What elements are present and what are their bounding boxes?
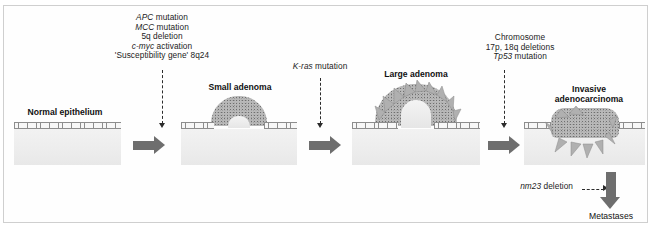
annotation-text: deletion [541, 181, 573, 191]
gene-name: Tp53 [493, 51, 512, 61]
tissue-block-normal [14, 129, 121, 165]
transition-arrow-2 [309, 136, 342, 155]
tissue-block-large-adenoma [352, 129, 480, 165]
annotation-text: 17p, 18q deletions [486, 42, 555, 52]
arrow-head [154, 136, 165, 154]
gene-name: APC [136, 12, 153, 22]
colorectal-carcinogenesis-figure: APC mutation MCC mutation 5q deletion c-… [0, 0, 654, 232]
annotation-text: 5q deletion [141, 31, 182, 41]
tissue-block-small-adenoma [181, 129, 297, 165]
annotation-text: mutation [512, 51, 547, 61]
dashed-connector-kras [320, 78, 321, 124]
epithelium-layer-normal [14, 122, 121, 129]
arrow-head [600, 197, 620, 209]
annotation-text: mutation [153, 12, 188, 22]
epithelium-layer-small-right [264, 122, 297, 129]
annotation-text: mutation [154, 22, 189, 32]
annotation-line: K-ras mutation [268, 62, 372, 72]
dashed-arrowhead-kras [317, 123, 323, 128]
epithelium-layer-small-left [181, 122, 214, 129]
annotation-text: mutation [313, 61, 348, 71]
annotation-text: 'Susceptibility gene' 8q24 [115, 50, 209, 60]
gene-name: c-myc [132, 41, 154, 51]
annotation-line: 'Susceptibility gene' 8q24 [82, 51, 242, 61]
annotation-nm23: nm23 deletion [463, 182, 573, 192]
dashed-connector-apc [162, 70, 163, 124]
stage-label-small-adenoma: Small adenoma [194, 83, 286, 93]
invasion-fronts-carcinoma [543, 104, 627, 160]
dashed-arrowhead-chromosome [501, 123, 507, 128]
arrow-shaft [488, 141, 510, 150]
gene-name: K-ras [293, 61, 313, 71]
arrow-shaft [309, 141, 331, 150]
arrow-head [509, 136, 520, 154]
arrow-head [330, 136, 341, 154]
epithelium-layer-large-right [434, 122, 480, 129]
annotation-kras-block: K-ras mutation [268, 62, 372, 72]
annotation-line: Tp53 mutation [437, 52, 603, 62]
metastases-label: Metastases [568, 212, 654, 222]
stage-label-invasive-adenocarcinoma: Invasive adenocarcinoma [541, 85, 637, 105]
tumour-stalk-large-adenoma [401, 100, 431, 128]
annotation-text: activation [154, 41, 192, 51]
dashed-connector-chromosome [504, 70, 505, 124]
tumour-stalk-small-adenoma [228, 116, 250, 128]
arrow-shaft [133, 141, 155, 150]
stage-label-normal-epithelium: Normal epithelium [13, 108, 117, 118]
annotation-apc-block: APC mutation MCC mutation 5q deletion c-… [82, 13, 242, 61]
annotation-text: Chromosome [495, 32, 545, 42]
transition-arrow-1 [133, 136, 166, 155]
annotation-chromosome-block: Chromosome 17p, 18q deletions Tp53 mutat… [437, 33, 603, 62]
gene-name: nm23 [520, 181, 541, 191]
transition-arrow-3 [488, 136, 521, 155]
arrow-shaft [606, 172, 616, 198]
dashed-arrowhead-apc [159, 123, 165, 128]
gene-name: MCC [135, 22, 154, 32]
epithelium-layer-large-left [352, 122, 398, 129]
metastasis-arrow [600, 172, 621, 210]
